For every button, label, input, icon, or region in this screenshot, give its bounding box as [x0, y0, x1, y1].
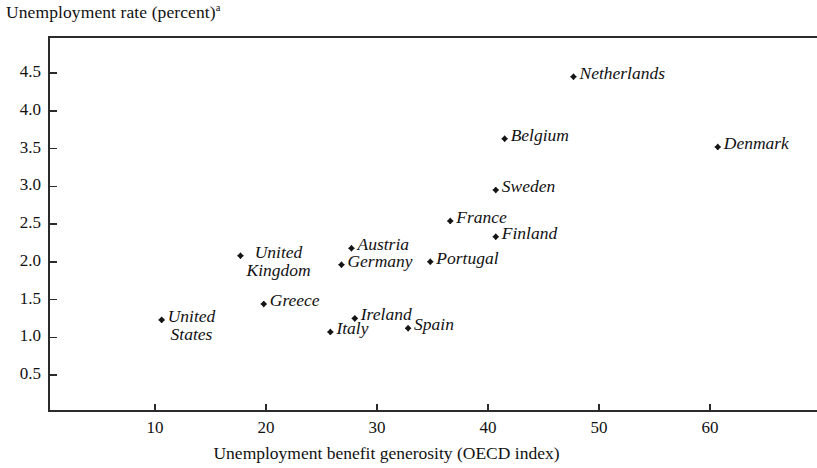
y-axis-tick-label: 3.5	[20, 138, 41, 158]
data-point-label: France	[456, 209, 507, 227]
scatter-plot-figure: Unemployment rate (percent)a United Stat…	[0, 0, 817, 468]
data-point-marker	[405, 325, 412, 332]
y-axis-tick	[50, 72, 57, 74]
y-axis-title-footnote-marker: a	[216, 2, 221, 13]
x-axis-tick-label: 50	[591, 418, 608, 438]
data-point-marker	[492, 233, 499, 240]
data-point-label: Sweden	[502, 178, 555, 196]
data-point-label: Austria	[357, 236, 409, 254]
data-point-marker	[260, 301, 267, 308]
data-point-marker	[237, 252, 244, 259]
y-axis-tick	[50, 337, 57, 339]
x-axis-tick-label: 60	[702, 418, 719, 438]
x-axis-tick-label: 30	[369, 418, 386, 438]
y-axis-tick-label: 0.5	[20, 364, 41, 384]
y-axis-tick-label: 3.0	[20, 175, 41, 195]
y-axis-tick	[50, 223, 57, 225]
plot-area: United StatesUnited KingdomGreeceItalyGe…	[48, 36, 817, 412]
data-point-label: Greece	[270, 292, 320, 310]
x-axis-tick-label: 20	[258, 418, 275, 438]
y-axis-tick-label: 2.0	[20, 251, 41, 271]
y-axis-tick-label: 4.5	[20, 62, 41, 82]
x-axis-line	[48, 410, 817, 412]
x-axis-tick-label: 10	[147, 418, 164, 438]
data-point-label: United Kingdom	[246, 244, 310, 280]
plot-top-rule	[48, 36, 817, 38]
data-point-marker	[570, 73, 577, 80]
data-point-label: Netherlands	[579, 65, 665, 83]
y-axis-title: Unemployment rate (percent)a	[6, 2, 220, 23]
x-axis-tick	[154, 404, 156, 411]
y-axis-tick	[50, 186, 57, 188]
data-point-marker	[714, 143, 721, 150]
data-point-label: Finland	[502, 225, 557, 243]
data-point-label: Portugal	[436, 250, 498, 268]
y-axis-tick	[50, 148, 57, 150]
x-axis-tick	[487, 404, 489, 411]
data-point-label: Germany	[347, 253, 412, 271]
data-point-marker	[158, 316, 165, 323]
data-point-label: Belgium	[511, 127, 569, 145]
x-axis-tick	[265, 404, 267, 411]
x-axis-tick	[709, 404, 711, 411]
data-point-label: Denmark	[724, 135, 789, 153]
y-axis-tick	[50, 261, 57, 263]
x-axis-tick	[598, 404, 600, 411]
data-point-marker	[338, 261, 345, 268]
data-point-marker	[447, 217, 454, 224]
data-point-label: United States	[168, 308, 216, 344]
y-axis-tick-label: 1.0	[20, 326, 41, 346]
data-point-marker	[327, 328, 334, 335]
y-axis-tick	[50, 110, 57, 112]
y-axis-tick	[50, 374, 57, 376]
data-point-marker	[492, 187, 499, 194]
data-point-label: Ireland	[361, 306, 412, 324]
data-point-marker	[427, 258, 434, 265]
y-axis-tick-label: 1.5	[20, 289, 41, 309]
data-point-marker	[501, 135, 508, 142]
y-axis-tick-label: 4.0	[20, 100, 41, 120]
y-axis-tick-label: 2.5	[20, 213, 41, 233]
x-axis-title-text: Unemployment benefit generosity (OECD in…	[213, 443, 559, 464]
x-axis-tick-label: 40	[480, 418, 497, 438]
y-axis-tick	[50, 299, 57, 301]
x-axis-title: Unemployment benefit generosity (OECD in…	[0, 443, 817, 464]
y-axis-title-text: Unemployment rate (percent)	[6, 2, 216, 22]
x-axis-tick	[376, 404, 378, 411]
data-point-label: Spain	[414, 316, 454, 334]
